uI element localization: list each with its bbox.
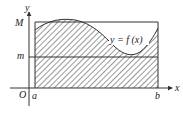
integral-bounds-diagram: y x O M m a b y = f (x) <box>0 0 183 117</box>
x-axis-label: x <box>174 82 180 93</box>
origin-label: O <box>19 89 26 100</box>
left-limit-label: a <box>32 90 37 101</box>
upper-bound-label: M <box>14 17 24 28</box>
right-limit-label: b <box>155 90 160 101</box>
y-axis-label: y <box>24 2 30 13</box>
lower-bound-label: m <box>17 50 24 61</box>
curve-label: y = f (x) <box>109 34 143 46</box>
